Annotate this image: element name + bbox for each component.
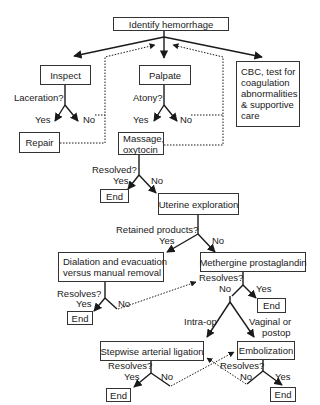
atony-label: Atony? — [133, 92, 163, 103]
postop-label: postop — [262, 327, 291, 338]
dialation-yes-label: Yes — [76, 298, 92, 309]
stepwise-resolves-label: Resolves? — [108, 360, 152, 371]
massage-line-2: oxytocin — [123, 144, 158, 155]
methergine-resolves-label: Resolves? — [199, 272, 243, 283]
stepwise-no-label: No — [161, 371, 173, 382]
cbc-line-2: coagulation — [241, 77, 290, 88]
inspect-box: Inspect — [40, 65, 91, 85]
stepwise-arterial-ligation-box: Stepwise arterial ligation — [100, 341, 204, 361]
massage-line-1: Massage, — [123, 133, 164, 144]
end-box-2: End — [67, 311, 93, 325]
end-box-3: End — [257, 298, 286, 313]
cbc-box: CBC, test for coagulation abnormalities … — [236, 61, 300, 127]
retained-products-label: Retained products? — [116, 224, 198, 235]
methergine-no-label: No — [219, 283, 231, 294]
resolved-yes-label: Yes — [113, 175, 129, 186]
dialation-evacuation-box: Dialation and evacuation versus manual r… — [58, 252, 164, 282]
end-box-1: End — [100, 189, 129, 203]
identify-hemorrhage-box: Identify hemorrhage — [113, 17, 229, 31]
methergine-yes-label: Yes — [256, 283, 272, 294]
cbc-line-1: CBC, test for — [241, 66, 295, 77]
cbc-line-5: care — [241, 110, 259, 121]
uterine-exploration-box: Uterine exploration — [158, 193, 239, 215]
inspect-yes-label: Yes — [35, 114, 51, 125]
end-box-4: End — [106, 388, 131, 402]
palpate-no-label: No — [180, 114, 192, 125]
vaginal-label: Vaginal or — [249, 316, 291, 327]
inspect-no-label: No — [83, 114, 95, 125]
methergine-prostaglandin-box: Methergine prostaglandin — [200, 252, 306, 272]
laceration-label: Laceration? — [14, 92, 64, 103]
embolization-yes-label: Yes — [275, 371, 291, 382]
palpate-yes-label: Yes — [133, 114, 149, 125]
intra-op-label: Intra-op — [184, 316, 217, 327]
stepwise-yes-label: Yes — [124, 371, 140, 382]
dialation-no-label: No — [118, 298, 130, 309]
end-box-5: End — [270, 387, 296, 402]
massage-oxytocin-box: Massage, oxytocin — [118, 132, 164, 155]
repair-box: Repair — [19, 132, 60, 153]
embolization-box: Embolization — [237, 341, 295, 360]
embolization-resolves-label: Resolves? — [220, 360, 264, 371]
resolved-no-label: No — [151, 175, 163, 186]
retained-yes-label: Yes — [159, 235, 175, 246]
cbc-line-3: abnormalities — [241, 88, 298, 99]
resolved-label: Resolved? — [92, 164, 137, 175]
retained-no-label: No — [212, 235, 224, 246]
cbc-line-4: & supportive — [241, 99, 294, 110]
embolization-no-label: No — [240, 371, 252, 382]
palpate-box: Palpate — [139, 65, 191, 85]
dialation-line-2: versus manual removal — [63, 267, 161, 278]
dialation-line-1: Dialation and evacuation — [63, 256, 167, 267]
